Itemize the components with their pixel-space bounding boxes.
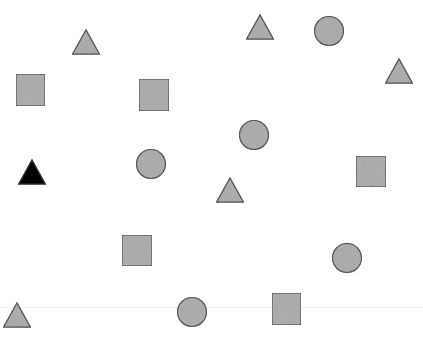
shape-layer — [4, 15, 413, 327]
gray-circle-shape — [315, 17, 344, 46]
gray-triangle-shape — [73, 30, 100, 54]
gray-triangle-shape — [217, 178, 244, 202]
gray-square-shape — [16, 74, 45, 106]
gray-circle-shape — [137, 150, 166, 179]
gray-square-shape — [139, 79, 169, 111]
gray-circle-shape — [178, 298, 207, 327]
gray-circle-shape — [240, 121, 269, 150]
gray-triangle-shape — [386, 59, 413, 83]
gray-triangle-shape — [4, 303, 31, 327]
gray-square-shape — [356, 156, 386, 187]
gray-square-shape — [122, 235, 152, 266]
shapes-canvas — [0, 0, 423, 339]
gray-square-shape — [272, 293, 301, 325]
gray-triangle-shape — [247, 15, 274, 39]
black-triangle-shape — [19, 160, 46, 184]
gray-circle-shape — [333, 244, 362, 273]
